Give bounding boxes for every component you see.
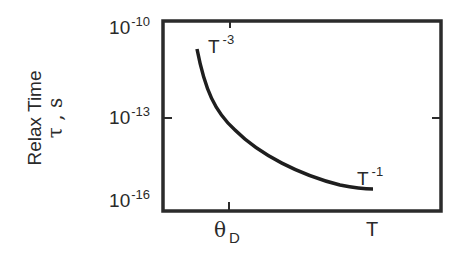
y-axis-label: Relax Time τ , s [25, 38, 66, 198]
y-tick-label-1e-16: 10-16 [70, 191, 150, 210]
y-tick-label-1e-13: 10-13 [70, 108, 150, 127]
x-tick-label-theta-d: θD [214, 218, 240, 246]
relaxation-time-chart: 10-10 10-13 10-16 Relax Time τ , s θD T … [0, 0, 461, 258]
y-tick-label-1e-10: 10-10 [70, 18, 150, 37]
plot-frame [163, 21, 441, 211]
relaxation-curve [197, 49, 373, 189]
annotation-t-minus-1: T-1 [357, 168, 383, 190]
annotation-t-minus-3: T-3 [208, 36, 234, 58]
x-axis-label-t: T [366, 218, 378, 241]
